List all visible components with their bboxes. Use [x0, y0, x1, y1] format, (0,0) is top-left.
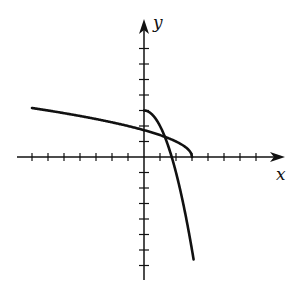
curve-sqrt-3-minus-x	[32, 108, 192, 157]
x-axis-label: x	[276, 166, 286, 183]
axes	[17, 19, 285, 280]
curves	[32, 108, 194, 259]
y-axis-label: y	[153, 14, 163, 31]
graph-canvas	[0, 0, 298, 290]
